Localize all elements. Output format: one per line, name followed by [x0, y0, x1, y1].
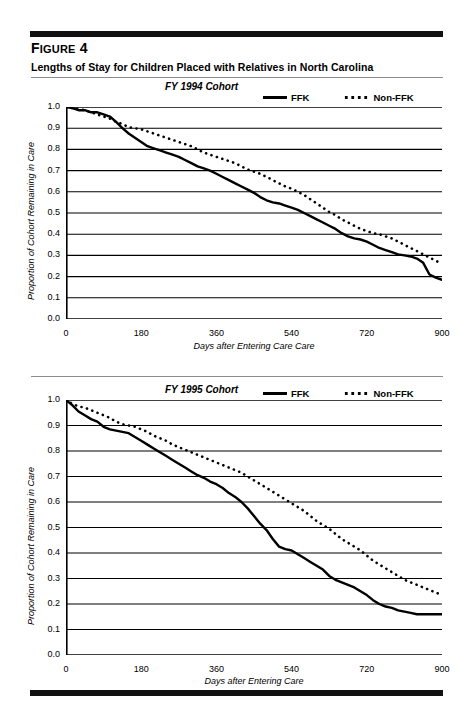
y-axis-tick-label: 0.3 [30, 573, 60, 583]
series-line-ffk [66, 400, 442, 614]
x-axis-tick-label: 0 [46, 328, 86, 338]
legend-swatch-dotted-icon [343, 392, 369, 395]
y-axis-tick-label: 0.4 [30, 547, 60, 557]
y-axis-tick-label: 0.5 [30, 522, 60, 532]
header-separator-rule [31, 77, 443, 78]
plot-area-fy1995 [66, 400, 442, 655]
x-axis-tick-label: 540 [272, 664, 312, 674]
y-axis-tick-label: 0.1 [30, 292, 60, 302]
x-axis-tick-label: 900 [422, 664, 462, 674]
x-axis-tick-label: 180 [121, 328, 161, 338]
legend-item-ffk: FFK [263, 388, 309, 399]
x-axis-tick-label: 360 [196, 328, 236, 338]
x-axis-tick-label: 0 [46, 664, 86, 674]
legend-item-non-ffk: Non-FFK [343, 92, 413, 103]
y-axis-tick-label: 0.7 [30, 471, 60, 481]
legend-label-ffk: FFK [291, 92, 309, 103]
series-line-ffk [66, 107, 442, 280]
y-axis-tick-label: 0.8 [30, 445, 60, 455]
y-axis-tick-label: 0.6 [30, 186, 60, 196]
figure-label: FIGURE 4 [31, 40, 443, 57]
legend-fy1994: FFK Non-FFK [263, 92, 414, 103]
figure-page: FIGURE 4 Lengths of Stay for Children Pl… [0, 0, 471, 728]
legend-fy1995: FFK Non-FFK [263, 388, 414, 399]
top-rule [30, 31, 443, 37]
y-axis-tick-label: 0.8 [30, 143, 60, 153]
figure-label-smallcaps: IGURE [40, 43, 76, 55]
legend-swatch-solid-icon [263, 96, 287, 99]
plot-area-fy1994 [66, 107, 442, 319]
legend-label-ffk: FFK [291, 388, 309, 399]
panel-separator-rule [31, 376, 443, 377]
y-axis-tick-label: 0.0 [30, 649, 60, 659]
panel-title-fy1995: FY 1995 Cohort [165, 384, 238, 395]
panel-title-fy1994: FY 1994 Cohort [165, 81, 238, 92]
figure-header: FIGURE 4 Lengths of Stay for Children Pl… [31, 40, 443, 74]
y-axis-tick-label: 0.9 [30, 420, 60, 430]
x-axis-tick-label: 540 [272, 328, 312, 338]
x-axis-label-fy1994: Days after Entering Care Care [66, 341, 442, 351]
y-axis-tick-label: 1.0 [30, 394, 60, 404]
bottom-rule [30, 690, 443, 696]
figure-title: Lengths of Stay for Children Placed with… [31, 60, 443, 74]
x-axis-tick-label: 180 [121, 664, 161, 674]
series-line-non-ffk [66, 400, 442, 595]
x-axis-label-fy1995: Days after Entering Care [66, 676, 442, 686]
plot-svg-fy1995 [66, 400, 442, 655]
x-axis-tick-label: 720 [347, 664, 387, 674]
series-line-non-ffk [66, 107, 442, 264]
legend-label-non-ffk: Non-FFK [373, 388, 413, 399]
y-axis-tick-label: 0.4 [30, 228, 60, 238]
legend-swatch-solid-icon [263, 392, 287, 395]
x-axis-tick-label: 900 [422, 328, 462, 338]
y-axis-tick-label: 0.1 [30, 624, 60, 634]
x-axis-tick-label: 360 [196, 664, 236, 674]
y-axis-tick-label: 0.3 [30, 249, 60, 259]
legend-item-ffk: FFK [263, 92, 309, 103]
y-axis-tick-label: 0.5 [30, 207, 60, 217]
x-axis-tick-label: 720 [347, 328, 387, 338]
figure-label-initial: F [31, 40, 40, 56]
y-axis-tick-label: 1.0 [30, 101, 60, 111]
legend-swatch-dotted-icon [343, 96, 369, 99]
y-axis-tick-label: 0.2 [30, 271, 60, 281]
legend-label-non-ffk: Non-FFK [373, 92, 413, 103]
plot-svg-fy1994 [66, 107, 442, 319]
y-axis-tick-label: 0.9 [30, 122, 60, 132]
figure-label-number: 4 [76, 40, 88, 56]
y-axis-tick-label: 0.7 [30, 165, 60, 175]
legend-item-non-ffk: Non-FFK [343, 388, 413, 399]
y-axis-tick-label: 0.6 [30, 496, 60, 506]
y-axis-tick-label: 0.0 [30, 313, 60, 323]
y-axis-tick-label: 0.2 [30, 598, 60, 608]
